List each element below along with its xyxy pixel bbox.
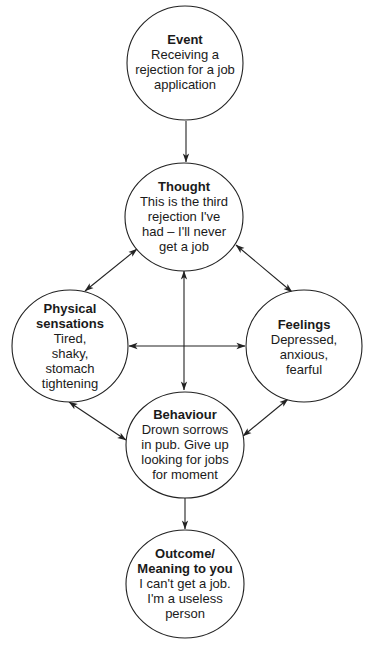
node-behaviour-text-line: for moment xyxy=(129,467,241,482)
node-physical-text-line: shaky, xyxy=(14,346,126,361)
node-feelings-title: Feelings xyxy=(248,317,360,332)
node-outcome-text-line: I'm a useless xyxy=(126,591,244,606)
node-physical-text-line: stomach xyxy=(14,361,126,376)
node-outcome-text-line: person xyxy=(126,606,244,621)
node-outcome-label: Outcome/ Meaning to you I can't get a jo… xyxy=(126,546,244,621)
node-feelings-text-line: Depressed, xyxy=(248,332,360,347)
node-feelings-text-line: anxious, xyxy=(248,347,360,362)
node-behaviour-text-line: Drown sorrows xyxy=(129,422,241,437)
node-event-text-line: application xyxy=(129,77,241,92)
node-thought-text-line: This is the third xyxy=(128,194,240,209)
node-physical-title: Physical xyxy=(14,301,126,316)
node-thought-text-line: get a job xyxy=(128,239,240,254)
node-behaviour-title: Behaviour xyxy=(129,407,241,422)
node-outcome-title: Outcome/ xyxy=(126,546,244,561)
node-thought-text-line: rejection I've xyxy=(128,209,240,224)
node-behaviour-label: Behaviour Drown sorrows in pub. Give up … xyxy=(129,407,241,482)
edge-feelings-behaviour xyxy=(243,399,288,436)
node-physical-text-line: Tired, xyxy=(14,331,126,346)
node-feelings-text-line: fearful xyxy=(248,362,360,377)
node-physical-label: Physical sensations Tired, shaky, stomac… xyxy=(14,301,126,391)
edge-thought-physical xyxy=(85,249,137,291)
node-event-label: Event Receiving a rejection for a job ap… xyxy=(129,32,241,92)
node-thought-text-line: had – I'll never xyxy=(128,224,240,239)
edge-physical-behaviour xyxy=(69,402,126,440)
node-feelings-label: Feelings Depressed, anxious, fearful xyxy=(248,317,360,377)
node-physical-title: sensations xyxy=(14,316,126,331)
node-event-text-line: Receiving a xyxy=(129,47,241,62)
node-behaviour-text-line: looking for jobs xyxy=(129,452,241,467)
node-thought-label: Thought This is the third rejection I've… xyxy=(128,179,240,254)
node-behaviour-text-line: in pub. Give up xyxy=(129,437,241,452)
edge-thought-feelings xyxy=(236,245,292,292)
node-outcome-text-line: I can't get a job. xyxy=(126,576,244,591)
node-event-text-line: rejection for a job xyxy=(129,62,241,77)
node-outcome-title: Meaning to you xyxy=(126,561,244,576)
node-thought-title: Thought xyxy=(128,179,240,194)
node-event-title: Event xyxy=(129,32,241,47)
node-physical-text-line: tightening xyxy=(14,376,126,391)
